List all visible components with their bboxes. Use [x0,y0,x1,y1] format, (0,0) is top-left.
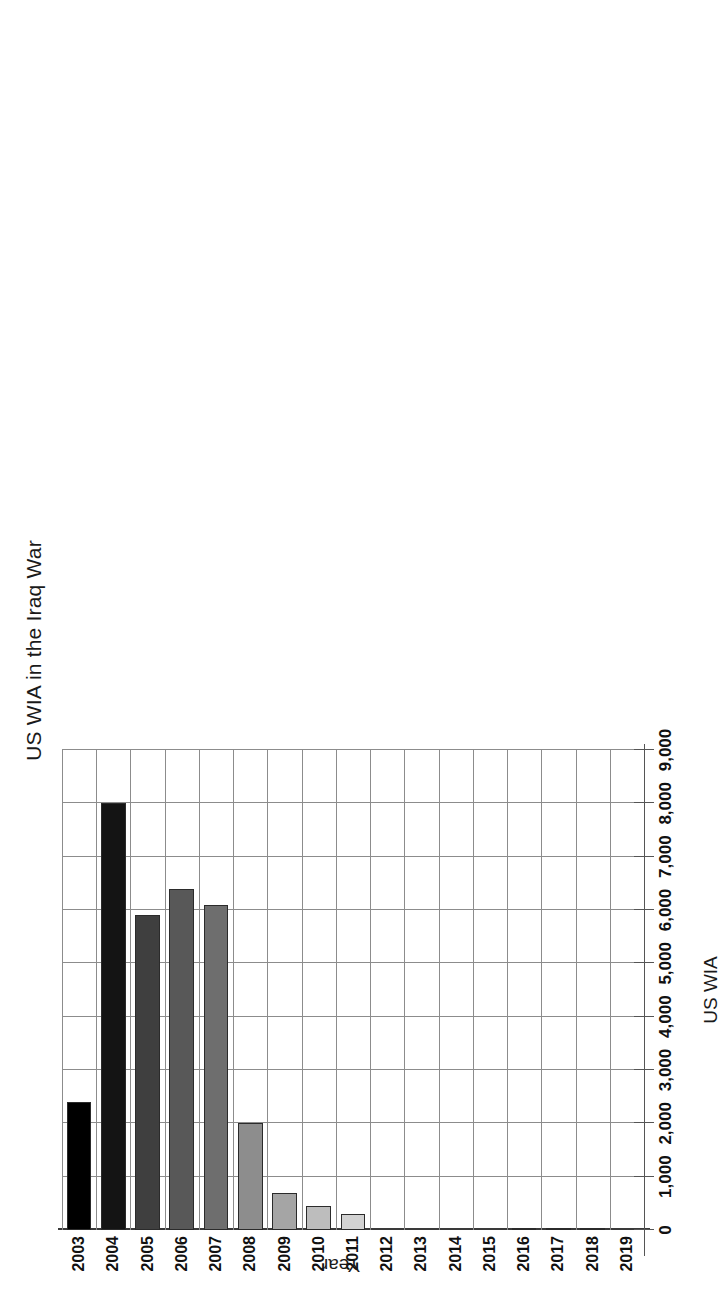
bar-2003 [67,1102,92,1230]
category-label-2004: 2004 [104,1236,122,1272]
gridline-horizontal [233,750,234,1230]
gridline-horizontal [610,750,611,1230]
value-tick-label: 5,000 [656,942,676,985]
bar-2005 [135,915,160,1230]
gridline-horizontal [439,750,440,1230]
bar-2010 [306,1206,331,1230]
gridline-horizontal [404,750,405,1230]
value-tick [634,1122,654,1123]
category-label-2008: 2008 [241,1236,259,1272]
category-label-2016: 2016 [515,1236,533,1272]
gridline-horizontal [199,750,200,1230]
gridline-horizontal [473,750,474,1230]
category-label-2014: 2014 [447,1236,465,1272]
gridline-vertical [62,802,644,803]
bar-2008 [238,1123,263,1230]
value-tick [634,749,654,750]
value-axis: 01,0002,0003,0004,0005,0006,0007,0008,00… [644,750,694,1230]
bar-2011 [341,1214,366,1230]
gridline-horizontal [541,750,542,1230]
gridline-horizontal [507,750,508,1230]
chart-title: US WIA in the Iraq War [22,0,46,1301]
gridline-horizontal [165,750,166,1230]
category-label-2015: 2015 [481,1236,499,1272]
category-label-2017: 2017 [549,1236,567,1272]
category-axis-title: Year [261,1254,421,1276]
plot-area [62,750,644,1230]
value-axis-title: US WIA [700,750,722,1230]
value-tick [634,1016,654,1017]
value-tick-label: 3,000 [656,1049,676,1092]
gridline-horizontal [130,750,131,1230]
gridline-vertical [62,749,644,750]
value-tick [634,909,654,910]
gridline-vertical [62,856,644,857]
value-tick [634,962,654,963]
value-tick [634,1176,654,1177]
value-tick-label: 7,000 [656,835,676,878]
gridline-horizontal [302,750,303,1230]
value-tick-label: 8,000 [656,782,676,825]
value-tick-label: 0 [656,1225,676,1234]
value-tick [634,856,654,857]
category-label-2003: 2003 [70,1236,88,1272]
gridline-horizontal [62,750,63,1230]
value-tick [634,802,654,803]
bar-2006 [169,889,194,1230]
value-tick-label: 6,000 [656,889,676,932]
gridline-vertical [62,909,644,910]
gridline-horizontal [576,750,577,1230]
bar-2007 [204,905,229,1230]
value-tick-label: 2,000 [656,1102,676,1145]
value-tick-label: 9,000 [656,729,676,772]
category-label-2007: 2007 [207,1236,225,1272]
value-axis-line [644,744,645,1256]
category-label-2018: 2018 [584,1236,602,1272]
gridline-horizontal [336,750,337,1230]
gridline-horizontal [267,750,268,1230]
category-label-2005: 2005 [139,1236,157,1272]
value-tick [634,1069,654,1070]
bar-2009 [272,1193,297,1230]
gridline-horizontal [96,750,97,1230]
gridline-horizontal [370,750,371,1230]
category-label-2019: 2019 [618,1236,636,1272]
value-tick-label: 1,000 [656,1155,676,1198]
value-tick-label: 4,000 [656,995,676,1038]
category-label-2006: 2006 [173,1236,191,1272]
bar-2004 [101,803,126,1230]
